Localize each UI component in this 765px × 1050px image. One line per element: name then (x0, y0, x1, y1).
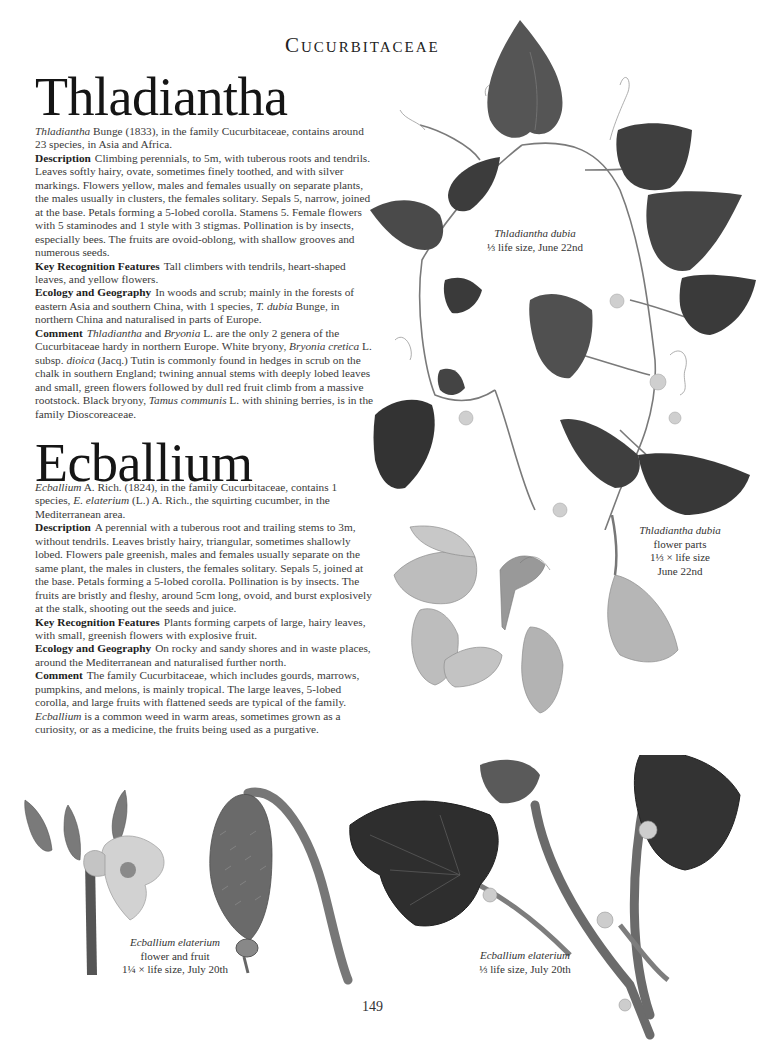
description-label: Description (35, 521, 91, 533)
caption-line: 1⅓ × life size (605, 551, 755, 565)
caption-line: ⅓ life size, July 20th (450, 963, 600, 977)
caption-ecballium-plant: Ecballium elaterium ⅓ life size, July 20… (450, 949, 600, 976)
description-paragraph: DescriptionClimbing perennials, to 5m, w… (35, 152, 375, 260)
caption-thladiantha-plant: Thladiantha dubia ⅓ life size, June 22nd (470, 227, 600, 254)
key-features-label: Key Recognition Features (35, 260, 160, 272)
caption-line: flower and fruit (100, 950, 250, 964)
ecology-paragraph: Ecology and GeographyOn rocky and sandy … (35, 642, 375, 669)
ecballium-plant-illustration (330, 755, 750, 1045)
caption-species: Thladiantha dubia (470, 227, 600, 241)
species-italic: T. dubia (256, 300, 293, 312)
caption-line: ⅓ life size, June 22nd (470, 241, 600, 255)
caption-species: Ecballium elaterium (450, 949, 600, 963)
ecology-label: Ecology and Geography (35, 286, 151, 298)
description-label: Description (35, 152, 91, 164)
page-number: 149 (362, 999, 383, 1015)
comment-label: Comment (35, 327, 83, 339)
caption-species: Thladiantha dubia (605, 524, 755, 538)
genus-italic: Bryonia (164, 327, 200, 339)
caption-species: Ecballium elaterium (100, 936, 250, 950)
genus-name-italic: Thladiantha (35, 125, 90, 137)
caption-line: 1¼ × life size, July 20th (100, 963, 250, 977)
genus-italic: Thladiantha (87, 327, 142, 339)
comment-label: Comment (35, 669, 83, 681)
comment-text: The family Cucurbitaceae, which includes… (35, 669, 359, 708)
genus-title-thladiantha: Thladiantha (35, 70, 287, 124)
subspecies-italic: dioica (66, 354, 94, 366)
caption-line: June 22nd (605, 565, 755, 579)
intro-paragraph: Thladiantha Bunge (1833), in the family … (35, 125, 375, 152)
thladiantha-vine-illustration (370, 10, 765, 530)
key-features-label: Key Recognition Features (35, 616, 160, 628)
caption-thladiantha-flower-parts: Thladiantha dubia flower parts 1⅓ × life… (605, 524, 755, 578)
genus-italic: Ecballium (35, 710, 81, 722)
species-italic: Bryonia cretica (289, 340, 359, 352)
comment-paragraph: CommentThladiantha and Bryonia L. are th… (35, 327, 375, 421)
intro-paragraph: Ecballium A. Rich. (1824), in the family… (35, 481, 375, 521)
caption-ecballium-flower-fruit: Ecballium elaterium flower and fruit 1¼ … (100, 936, 250, 977)
description-text: Climbing perennials, to 5m, with tuberou… (35, 152, 370, 258)
ecology-label: Ecology and Geography (35, 642, 151, 654)
comment-text: and (142, 327, 164, 339)
ecballium-text: Ecballium A. Rich. (1824), in the family… (35, 481, 375, 737)
key-features-paragraph: Key Recognition FeaturesPlants forming c… (35, 616, 375, 643)
genus-name-italic: Ecballium (35, 481, 81, 493)
species-italic: Tamus communis (149, 394, 227, 406)
description-paragraph: DescriptionA perennial with a tuberous r… (35, 521, 375, 615)
leaf (370, 20, 756, 515)
thladiantha-text: Thladiantha Bunge (1833), in the family … (35, 125, 375, 421)
key-features-paragraph: Key Recognition FeaturesTall climbers wi… (35, 260, 375, 287)
ecology-paragraph: Ecology and GeographyIn woods and scrub;… (35, 286, 375, 326)
description-text: A perennial with a tuberous root and tra… (35, 521, 372, 614)
caption-line: flower parts (605, 538, 755, 552)
species-italic: E. elaterium (73, 494, 129, 506)
comment-paragraph: CommentThe family Cucurbitaceae, which i… (35, 669, 375, 736)
comment-text: is a common weed in warm areas, sometime… (35, 710, 341, 735)
